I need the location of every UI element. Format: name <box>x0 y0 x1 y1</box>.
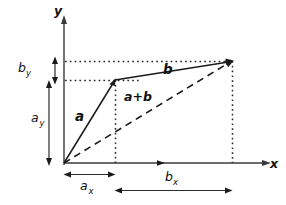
b-y-arrowhead-top <box>52 57 58 65</box>
vector-a-arrowhead <box>109 78 115 86</box>
b-x-arrowhead-right <box>225 188 233 194</box>
label-b-x: b x <box>165 169 179 187</box>
figure-canvas: y x a b a+b b y a y a x b x <box>0 0 286 205</box>
a-y-label-subscript: y <box>39 118 46 128</box>
a-y-arrowhead-bottom <box>46 158 52 166</box>
vector-a-plus-b-line <box>64 65 226 164</box>
label-a-y: a y <box>31 110 46 128</box>
a-x-label-symbol: a <box>80 178 88 193</box>
vector-a-plus-b-label: a+b <box>124 89 152 104</box>
label-b-y: b y <box>18 60 32 78</box>
a-x-arrowhead-left <box>64 172 72 178</box>
x-axis-mid-arrowhead <box>157 160 165 165</box>
a-x-label-subscript: x <box>88 186 95 196</box>
vector-a <box>64 78 116 163</box>
y-axis-label: y <box>54 3 63 18</box>
dimension-b-y <box>52 57 58 85</box>
b-x-label-subscript: x <box>172 177 179 187</box>
b-x-arrowhead-left <box>115 188 123 194</box>
vector-addition-figure: y x a b a+b b y a y a x b x <box>0 0 286 205</box>
b-y-arrowhead-bottom <box>52 77 58 85</box>
b-y-label-subscript: y <box>25 68 32 78</box>
dimension-b-x <box>115 188 233 194</box>
a-x-arrowhead-right <box>108 172 116 178</box>
b-x-label-symbol: b <box>165 169 173 184</box>
x-axis-label: x <box>269 156 279 171</box>
dimension-a-y <box>46 80 52 166</box>
vector-a-plus-b <box>64 60 234 163</box>
vector-a-label: a <box>75 108 84 124</box>
vector-b-label: b <box>163 61 173 77</box>
dimension-a-x <box>64 172 116 178</box>
axes-group <box>61 15 271 166</box>
a-y-arrowhead-top <box>46 80 52 88</box>
b-y-label-symbol: b <box>18 60 26 75</box>
label-a-x: a x <box>80 178 95 196</box>
a-y-label-symbol: a <box>31 110 39 125</box>
vector-a-line <box>64 83 114 164</box>
